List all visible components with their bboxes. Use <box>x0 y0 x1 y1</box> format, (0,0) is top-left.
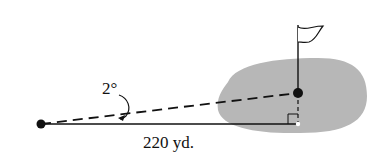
angle-label: 2° <box>102 79 117 98</box>
putting-green <box>218 58 367 133</box>
ball-point <box>293 88 303 98</box>
angle-arc-pointer <box>119 95 129 119</box>
golf-angle-diagram: 2° 220 yd. <box>0 0 367 153</box>
angle-arrowhead <box>118 115 125 121</box>
hole-icon <box>296 122 300 126</box>
distance-label: 220 yd. <box>143 133 194 152</box>
flag-icon <box>298 26 323 42</box>
tee-point <box>37 120 46 129</box>
